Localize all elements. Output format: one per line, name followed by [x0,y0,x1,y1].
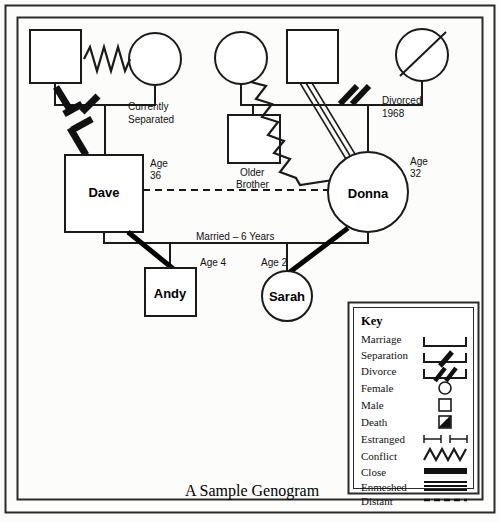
genogram-svg: Currently Separated Divorced 1968 Older … [0,0,500,522]
key-label-marriage: Marriage [361,333,401,345]
label-married-six-years: Married – 6 Years [196,231,274,242]
label-andy-age: Age 4 [200,257,227,268]
label-donna: Donna [348,186,389,201]
key-symbol-male [439,399,451,411]
key-label-enmeshed: Enmeshed [361,481,407,493]
key-label-separation: Separation [361,349,409,361]
label-donna-age-line1: Age [410,156,428,167]
label-dave-age-line2: 36 [150,170,162,181]
person-dave-father[interactable] [30,30,81,83]
label-divorced-line2: 1968 [382,108,405,119]
label-older-brother-line2: Brother [236,179,269,190]
key-label-male: Male [361,399,384,411]
divorce-marks-donna-parents [340,86,369,104]
label-sarah-age: Age 2 [261,257,288,268]
relation-conflict-dave-parents [84,47,130,71]
key-symbol-close [424,468,467,474]
genogram-canvas: Currently Separated Divorced 1968 Older … [0,0,500,522]
person-dave-mother[interactable] [129,33,181,85]
page-title: A Sample Genogram [185,482,320,500]
label-andy: Andy [154,286,187,301]
label-sarah: Sarah [269,289,305,304]
key-label-estranged: Estranged [361,433,405,445]
person-donna-father[interactable] [287,30,338,83]
person-older-brother[interactable] [228,115,280,163]
key-label-female: Female [361,382,393,394]
key-label-divorce: Divorce [361,365,397,377]
key-panel [349,303,479,494]
key-heading: Key [361,314,383,328]
label-donna-age-line2: 32 [410,168,422,179]
label-older-brother-line1: Older [240,167,265,178]
key-label-distant: Distant [361,495,393,507]
label-dave: Dave [88,185,119,200]
label-divorced-line1: Divorced [382,95,421,106]
person-donna-mother[interactable] [215,32,267,84]
key-label-close: Close [361,466,386,478]
key-symbol-female [439,382,451,394]
key-label-death: Death [361,416,388,428]
key-label-conflict: Conflict [361,450,397,462]
label-currently-separated-line2: Separated [128,114,174,125]
label-dave-age-line1: Age [150,158,168,169]
label-currently-separated-line1: Currently [128,101,169,112]
estranged-marks-dave-father [56,87,92,155]
